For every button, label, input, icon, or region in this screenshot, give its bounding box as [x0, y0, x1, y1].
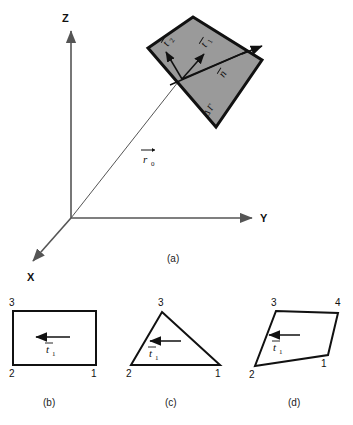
panel-c-tangent-subscript: 1	[155, 354, 159, 362]
position-vector-r0-line	[71, 77, 182, 218]
panel-b-caption: (b)	[43, 397, 55, 408]
panel-b: t 1 3 2 1 (b)	[9, 297, 97, 408]
panel-b-node-2: 2	[9, 368, 15, 379]
r0-symbol: r	[143, 153, 148, 165]
axis-z-label: Z	[62, 12, 69, 24]
panel-b-node-3: 3	[9, 297, 15, 308]
axis-y-label: Y	[260, 212, 268, 224]
figure-root: Z Y X r 0	[0, 0, 353, 425]
position-vector-r0-label: r 0	[141, 148, 155, 168]
axis-x-line	[33, 218, 71, 261]
r0-accent-head	[152, 148, 155, 152]
axis-x-label: X	[27, 271, 35, 283]
panel-d-node-4: 4	[335, 297, 341, 308]
panel-d-node-3: 3	[271, 297, 277, 308]
panel-d-node-2: 2	[249, 369, 255, 380]
panel-c-node-1: 1	[215, 368, 221, 379]
panel-c-caption: (c)	[165, 397, 177, 408]
axis-x	[33, 218, 71, 261]
panel-c: t 1 3 2 1 (c)	[126, 297, 221, 408]
panel-c-shape	[131, 312, 220, 365]
panel-a: Z Y X r 0	[27, 12, 268, 283]
panel-d: t 1 3 4 2 1 (d)	[249, 297, 341, 408]
panel-c-node-2: 2	[126, 368, 132, 379]
figure-svg: Z Y X r 0	[0, 0, 353, 425]
panel-b-tangent-subscript: 1	[52, 350, 56, 358]
r0-subscript: 0	[151, 160, 155, 168]
panel-a-caption: (a)	[167, 253, 179, 264]
panel-d-caption: (d)	[288, 397, 300, 408]
panel-d-tangent-subscript: 1	[279, 348, 283, 356]
panel-d-node-1: 1	[321, 358, 327, 369]
panel-b-node-1: 1	[91, 368, 97, 379]
panel-c-node-3: 3	[158, 297, 164, 308]
